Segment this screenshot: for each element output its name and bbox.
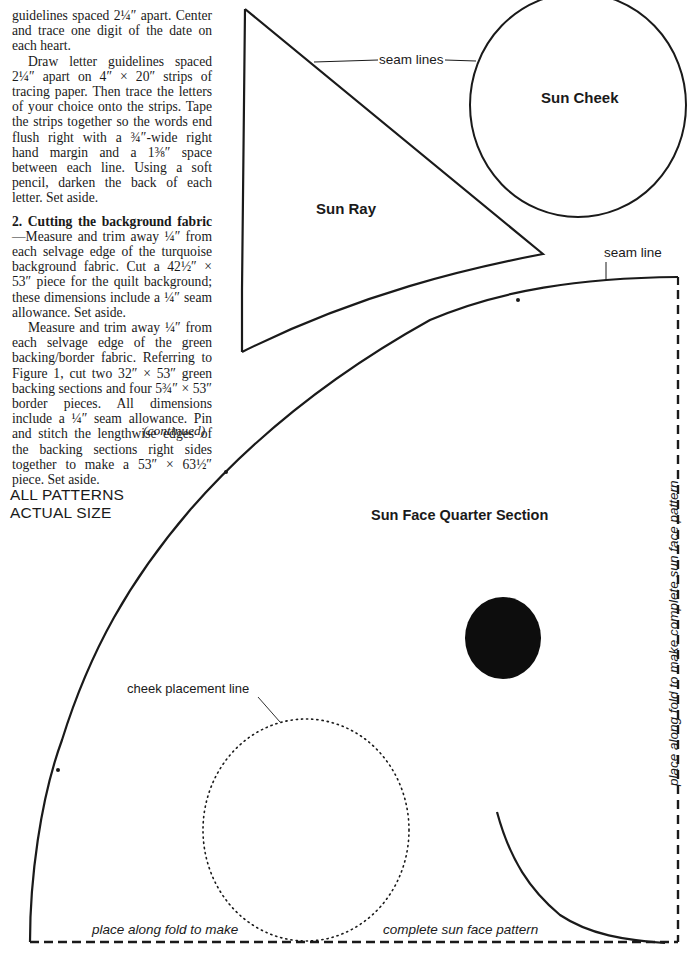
- registration-dot: [224, 470, 228, 474]
- sun-ray-label: Sun Ray: [316, 200, 376, 217]
- fold-label-bottom-right: complete sun face pattern: [383, 922, 538, 937]
- seam-lines-label: seam lines: [379, 52, 444, 67]
- seam-line-label: seam line: [604, 245, 662, 260]
- sun-eye: [465, 597, 541, 679]
- fold-label-right-vertical: place along fold to make complete sun fa…: [666, 481, 681, 786]
- fold-label-bottom-left: place along fold to make: [92, 922, 238, 937]
- sun-face-label: Sun Face Quarter Section: [371, 507, 548, 523]
- cheek-placement-circle: [203, 719, 409, 941]
- cheek-placement-leader: [258, 697, 280, 722]
- sun-cheek-label: Sun Cheek: [541, 89, 619, 106]
- sun-face-arc: [30, 277, 678, 942]
- sun-cheek-circle: [470, 0, 686, 217]
- seam-lines-leader-right: [445, 60, 476, 61]
- pattern-artwork: [0, 0, 697, 955]
- registration-dot: [516, 298, 520, 302]
- seam-lines-leader-left: [314, 60, 378, 62]
- cheek-placement-label: cheek placement line: [127, 681, 249, 696]
- registration-dot: [56, 768, 60, 772]
